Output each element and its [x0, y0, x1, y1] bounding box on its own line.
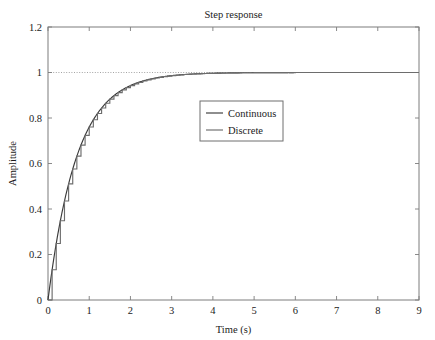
step-response-figure: 012345678900.20.40.60.811.2Time (s)Ampli… — [0, 0, 435, 340]
x-tick-label: 7 — [334, 305, 339, 316]
x-tick-label: 5 — [251, 305, 256, 316]
legend-label: Discrete — [228, 125, 263, 136]
y-tick-label: 0 — [37, 295, 42, 306]
chart-canvas: 012345678900.20.40.60.811.2Time (s)Ampli… — [0, 0, 435, 340]
chart-title: Step response — [204, 9, 262, 20]
x-tick-label: 8 — [375, 305, 380, 316]
x-tick-label: 6 — [293, 305, 298, 316]
y-tick-label: 0.8 — [29, 113, 42, 124]
y-tick-label: 0.2 — [29, 249, 42, 260]
y-tick-label: 1.2 — [29, 22, 42, 33]
plot-background — [48, 27, 419, 300]
y-tick-label: 0.4 — [29, 204, 43, 215]
x-tick-label: 9 — [416, 305, 421, 316]
x-tick-label: 1 — [87, 305, 92, 316]
x-tick-label: 4 — [210, 305, 216, 316]
x-tick-label: 3 — [169, 305, 174, 316]
y-axis-title: Amplitude — [7, 141, 18, 186]
y-tick-label: 0.6 — [29, 158, 42, 169]
x-tick-label: 2 — [128, 305, 133, 316]
x-axis-title: Time (s) — [216, 324, 252, 336]
legend-label: Continuous — [228, 108, 276, 119]
x-tick-label: 0 — [45, 305, 50, 316]
y-tick-label: 1 — [37, 67, 42, 78]
